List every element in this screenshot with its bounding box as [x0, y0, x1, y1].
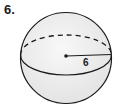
center-point — [64, 54, 68, 58]
sphere-outline — [21, 13, 112, 104]
sphere-diagram: 6 — [0, 0, 120, 108]
radius-label: 6 — [83, 57, 89, 68]
